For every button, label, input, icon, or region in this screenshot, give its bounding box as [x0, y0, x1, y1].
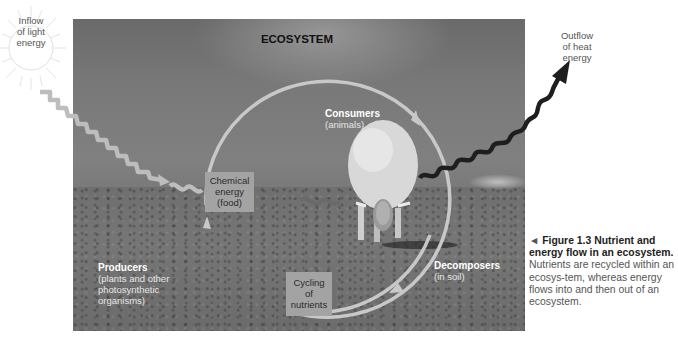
caption-figure-label: Figure 1.3: [542, 235, 591, 246]
outflow-heat-label: Outflow of heat energy: [552, 30, 602, 63]
chemical-line-3: (food): [205, 197, 254, 208]
cycling-nutrients-box: Cycling of nutrients: [286, 272, 332, 316]
light-energy-arrow: [40, 92, 162, 180]
outflow-line-2: of heat: [552, 41, 602, 52]
inflow-line-2: of light: [12, 26, 50, 37]
outflow-line-1: Outflow: [552, 30, 602, 41]
producers-name: Producers: [98, 262, 169, 273]
decomposers-detail: (in soil): [434, 271, 465, 282]
chemical-line-1: Chemical: [205, 175, 254, 186]
chemical-energy-box: Chemical energy (food): [205, 172, 254, 212]
figure-caption: ◄ Figure 1.3 Nutrient and energy flow in…: [529, 235, 674, 308]
consumers-name: Consumers: [325, 108, 380, 119]
decomposers-label: Decomposers (in soil): [434, 260, 500, 282]
inflow-line-3: energy: [12, 37, 50, 48]
consumers-detail: (animals): [325, 119, 364, 130]
inflow-line-1: Inflow: [12, 15, 50, 26]
cycling-line-3: nutrients: [286, 299, 332, 310]
decomposers-name: Decomposers: [434, 260, 500, 271]
outflow-line-3: energy: [552, 52, 602, 63]
caption-marker-icon: ◄: [529, 235, 539, 246]
chemical-line-2: energy: [205, 186, 254, 197]
sheep-icon: [348, 120, 458, 249]
cycling-line-2: of: [286, 288, 332, 299]
producers-detail-3: organisms): [98, 295, 169, 306]
cycling-line-1: Cycling: [286, 277, 332, 288]
producers-label: Producers (plants and other photosynthet…: [98, 262, 169, 306]
producers-detail-2: photosynthetic: [98, 284, 169, 295]
heat-energy-arrow: [420, 74, 560, 178]
producers-detail-1: (plants and other: [98, 273, 169, 284]
caption-body: Nutrients are recycled within an ecosys-…: [529, 259, 674, 307]
inflow-light-label: Inflow of light energy: [12, 15, 50, 48]
consumers-label: Consumers (animals): [325, 108, 380, 130]
